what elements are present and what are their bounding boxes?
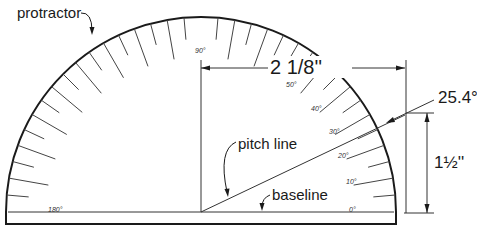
vertical-dimension-label: 1½'': [434, 153, 464, 172]
scale-label-180: 180°: [48, 206, 63, 213]
protractor-diagram: 2 1/8'' 1½'' 25.4° protractor pitch line…: [0, 0, 477, 228]
scale-label-90: 90°: [195, 47, 206, 54]
scale-label-10: 10°: [346, 178, 357, 185]
arrow-up-icon: [425, 113, 430, 122]
protractor-label: protractor: [17, 4, 81, 21]
baseline-label: baseline: [272, 186, 328, 203]
arrow-down-icon: [425, 204, 430, 213]
scale-label-40: 40°: [311, 105, 322, 112]
scale-label-30: 30°: [329, 128, 340, 135]
scale-label-50: 50°: [286, 81, 297, 88]
arrow-right-icon: [396, 66, 405, 71]
angle-label: 25.4°: [438, 88, 477, 107]
scale-label-20: 20°: [337, 152, 349, 159]
horizontal-dimension-label: 2 1/8'': [270, 56, 322, 78]
pitch-line-label: pitch line: [238, 135, 297, 152]
arrow-left-icon: [201, 66, 210, 71]
scale-label-0: 0°: [349, 206, 356, 213]
